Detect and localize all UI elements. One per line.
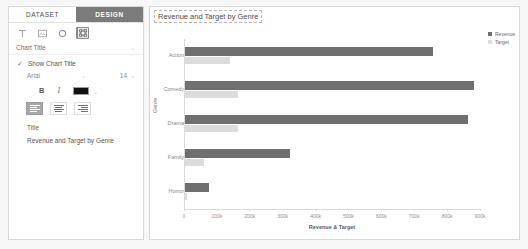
y-axis-tick-label: Action	[142, 52, 184, 58]
y-axis-tick-label: Comedy	[142, 86, 184, 92]
panel-tabbar: DATASET DESIGN	[9, 7, 143, 23]
bar-target[interactable]	[185, 125, 238, 132]
design-panel: DATASET DESIGN Chart Title ⌄ ✓ Show Char…	[8, 6, 144, 240]
font-family-select[interactable]: Arial	[27, 72, 79, 79]
x-axis-tickmark	[348, 209, 349, 211]
bar-revenue[interactable]	[185, 81, 474, 90]
show-chart-title-label: Show Chart Title	[28, 60, 76, 67]
bar-revenue[interactable]	[185, 183, 209, 192]
panel-toolbar	[9, 23, 143, 42]
x-axis-tickmark	[316, 209, 317, 211]
font-size-select[interactable]: 14	[120, 72, 127, 79]
text-color-picker[interactable]: ⌄	[73, 87, 98, 95]
x-axis-tick-label: 400k	[310, 213, 321, 219]
x-axis-tick-label: 800k	[442, 213, 453, 219]
x-axis-tickmark	[250, 209, 251, 211]
x-axis-tickmark	[381, 209, 382, 211]
text-align-controls	[9, 99, 143, 119]
section-title: Chart Title	[16, 44, 46, 51]
y-axis-tick-label: Drama	[142, 120, 184, 126]
x-axis-tick-label: 900k	[475, 213, 486, 219]
image-icon[interactable]	[36, 27, 49, 39]
plot-area: Genre ActionComedyDramaFamilyHorror 0100…	[150, 7, 521, 241]
font-size-chevron-down-icon: ⌄	[130, 72, 135, 79]
x-axis-line: 0100k200k300k400k500k600k700k800k900k	[184, 209, 480, 210]
align-left-button[interactable]	[26, 102, 43, 115]
x-axis-tickmark	[447, 209, 448, 211]
y-axis-tick-label: Horror	[142, 188, 184, 194]
title-input[interactable]: Revenue and Target by Genre	[9, 133, 143, 146]
y-axis-tick-labels: ActionComedyDramaFamilyHorror	[150, 7, 184, 177]
italic-button[interactable]: I	[57, 87, 60, 95]
bold-button[interactable]: B	[39, 87, 44, 95]
align-right-button[interactable]	[74, 102, 91, 115]
align-center-button[interactable]	[50, 102, 67, 115]
bar-target[interactable]	[185, 159, 204, 166]
settings-icon[interactable]	[76, 27, 89, 39]
chevron-down-icon: ⌄	[130, 44, 135, 51]
y-axis-tick-label: Family	[142, 154, 184, 160]
bar-revenue[interactable]	[185, 115, 468, 124]
bar-target[interactable]	[185, 91, 238, 98]
x-axis-tick-label: 700k	[409, 213, 420, 219]
color-swatch	[73, 87, 89, 95]
color-chevron-down-icon: ⌄	[93, 88, 98, 95]
x-axis-tick-label: 100k	[211, 213, 222, 219]
text-style-controls: B I ⌄	[9, 81, 143, 99]
bar-revenue[interactable]	[185, 149, 290, 158]
x-axis-tick-label: 0	[183, 213, 186, 219]
bars-container	[184, 39, 480, 209]
align-right-icon	[78, 104, 88, 113]
text-icon[interactable]	[16, 27, 29, 39]
x-axis-tick-label: 600k	[376, 213, 387, 219]
x-axis-tick-label: 300k	[277, 213, 288, 219]
tab-dataset[interactable]: DATASET	[9, 7, 76, 22]
title-field-label: Title	[9, 119, 143, 133]
x-axis-tickmark	[217, 209, 218, 211]
x-axis-tickmark	[480, 209, 481, 211]
font-controls: Arial ⌄ 14 ⌄	[9, 71, 143, 81]
x-axis-label: Revenue & Target	[184, 224, 480, 230]
x-axis-tick-label: 200k	[244, 213, 255, 219]
bar-target[interactable]	[185, 193, 187, 200]
x-axis-tickmark	[414, 209, 415, 211]
bar-revenue[interactable]	[185, 47, 433, 56]
tab-design[interactable]: DESIGN	[76, 7, 143, 22]
app-root: DATASET DESIGN Chart Title ⌄ ✓ Show Char…	[0, 0, 528, 249]
x-axis-tickmark	[283, 209, 284, 211]
check-icon: ✓	[17, 60, 23, 67]
section-header-chart-title[interactable]: Chart Title ⌄	[9, 42, 143, 55]
chart-panel: Revenue and Target by Genre RevenueTarge…	[149, 6, 520, 240]
show-chart-title-checkbox[interactable]: ✓ Show Chart Title	[9, 55, 143, 71]
font-family-chevron-down-icon: ⌄	[81, 72, 86, 79]
align-center-icon	[54, 104, 64, 113]
x-axis-tickmark	[184, 209, 185, 211]
align-left-icon	[30, 104, 40, 113]
x-axis-tick-label: 500k	[343, 213, 354, 219]
circle-icon[interactable]	[56, 27, 69, 39]
bar-target[interactable]	[185, 57, 230, 64]
